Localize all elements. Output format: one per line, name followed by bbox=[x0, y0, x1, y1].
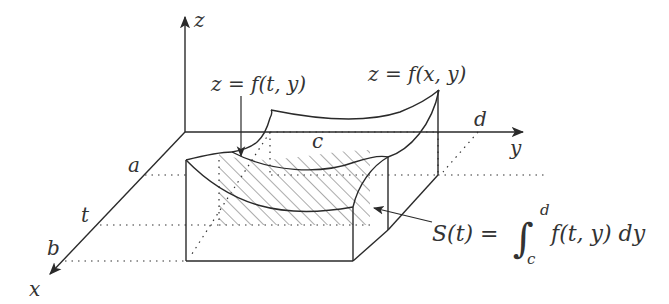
y-axis-label: y bbox=[509, 136, 522, 160]
tick-b: b bbox=[47, 236, 60, 260]
integral-lower-limit: c bbox=[527, 250, 536, 268]
double-integral-diagram: z y x a t b c d z = f(t, y) z = f(x, y) … bbox=[0, 0, 669, 304]
x-axis bbox=[50, 132, 185, 274]
surface-label: z = f(x, y) bbox=[367, 62, 466, 86]
tick-d: d bbox=[474, 107, 487, 131]
integrand: f(t, y) dy bbox=[549, 221, 646, 246]
z-axis-label: z bbox=[193, 8, 205, 32]
area-label-lhs: S(t) = bbox=[432, 221, 499, 246]
area-arrow bbox=[374, 208, 432, 222]
x-axis-label: x bbox=[29, 277, 40, 301]
slice-curve-label: z = f(t, y) bbox=[210, 72, 306, 96]
tick-a: a bbox=[128, 153, 140, 177]
integral-upper-limit: d bbox=[540, 201, 550, 219]
tick-c: c bbox=[312, 129, 323, 153]
cross-section-area bbox=[219, 150, 370, 225]
tick-t: t bbox=[81, 203, 90, 227]
